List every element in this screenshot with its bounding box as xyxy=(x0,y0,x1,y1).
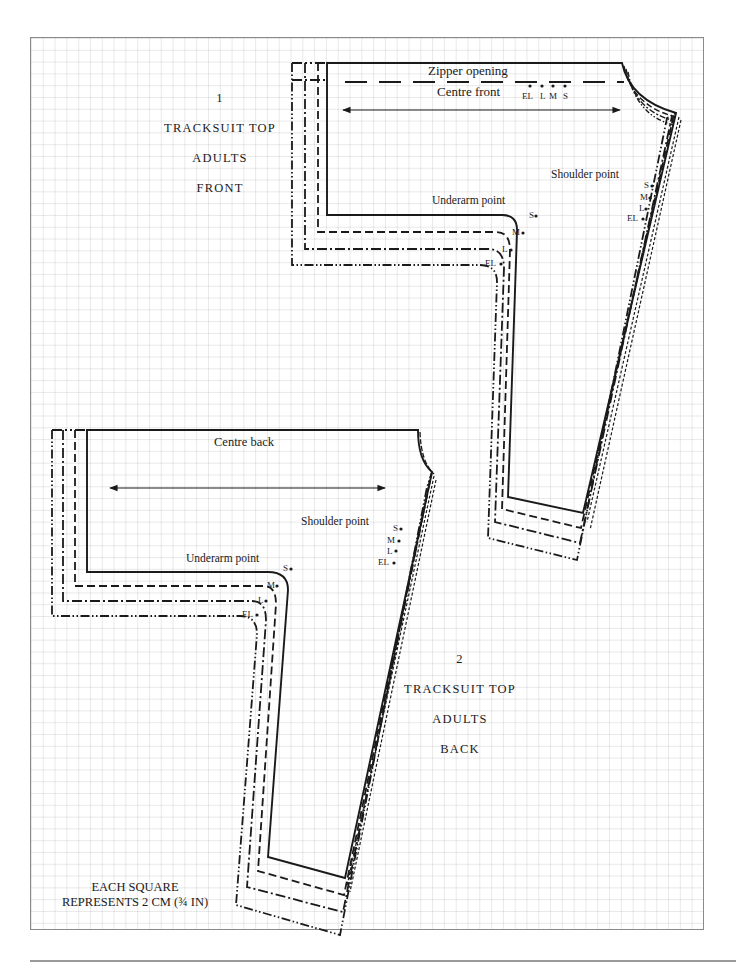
front-centre-label: Centre front xyxy=(437,84,500,100)
back-size-s-outline xyxy=(87,430,432,878)
back-size-el-outline xyxy=(52,430,432,935)
front-piece-group: ADULTS xyxy=(150,143,290,173)
pattern-drawing xyxy=(0,0,736,962)
front-size-el-outline xyxy=(292,63,676,560)
back-underarm-size-l: L xyxy=(258,595,264,605)
front-piece-view: FRONT xyxy=(150,173,290,203)
front-underarm-size-dots xyxy=(499,214,537,265)
front-underarm-size-s: S xyxy=(529,210,534,220)
front-piece-title: TRACKSUIT TOP xyxy=(150,113,290,143)
back-piece-view: BACK xyxy=(390,734,530,764)
back-underarm-size-m: M xyxy=(267,580,275,590)
front-zipper-label: Zipper opening xyxy=(428,63,508,79)
front-piece xyxy=(292,63,681,560)
front-shoulder-size-l: L xyxy=(639,203,645,213)
front-underarm-size-m: M xyxy=(512,227,520,237)
back-size-l-outline xyxy=(63,430,430,912)
back-underarm-size-s: S xyxy=(283,563,288,573)
front-shoulder-size-s: S xyxy=(644,180,649,190)
grid-scale-note-line2: REPRESENTS 2 CM (¾ IN) xyxy=(40,895,230,910)
front-shoulder-label: Shoulder point xyxy=(551,168,619,180)
front-zipper-size-l: L xyxy=(540,91,546,101)
back-piece-title-block: 2 TRACKSUIT TOP ADULTS BACK xyxy=(390,644,530,764)
grid-scale-note-line1: EACH SQUARE xyxy=(40,880,230,895)
front-underarm-size-l: L xyxy=(502,244,508,254)
back-shoulder-label: Shoulder point xyxy=(301,515,369,527)
back-shoulder-size-l: L xyxy=(387,546,393,556)
back-piece-title: TRACKSUIT TOP xyxy=(390,674,530,704)
back-shoulder-size-m: M xyxy=(387,535,395,545)
front-zipper-size-dots xyxy=(528,84,566,87)
front-size-l-outline xyxy=(305,63,672,543)
back-piece-group: ADULTS xyxy=(390,704,530,734)
back-underarm-label: Underarm point xyxy=(186,552,259,564)
front-zipper-size-m: M xyxy=(549,91,557,101)
back-piece xyxy=(52,430,436,935)
front-shoulder-size-m: M xyxy=(640,192,648,202)
back-size-m-outline xyxy=(75,430,431,895)
front-piece-number: 1 xyxy=(150,83,290,113)
back-underarm-size-el: EL xyxy=(242,609,253,619)
back-shoulder-size-s: S xyxy=(393,523,398,533)
back-centre-label: Centre back xyxy=(214,435,274,450)
front-underarm-label: Underarm point xyxy=(432,194,505,206)
front-zipper-size-s: S xyxy=(563,91,568,101)
back-piece-number: 2 xyxy=(390,644,530,674)
front-shoulder-size-el: EL xyxy=(627,213,638,223)
front-size-s-outline xyxy=(327,63,676,513)
front-piece-title-block: 1 TRACKSUIT TOP ADULTS FRONT xyxy=(150,83,290,203)
front-underarm-size-el: EL xyxy=(485,258,496,268)
front-zipper-size-el: EL xyxy=(522,91,533,101)
grid-scale-note: EACH SQUARE REPRESENTS 2 CM (¾ IN) xyxy=(40,880,230,910)
back-shoulder-size-el: EL xyxy=(378,557,389,567)
